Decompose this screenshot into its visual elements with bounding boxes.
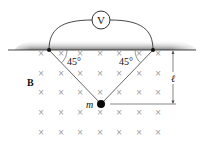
right-angle-label: 45° bbox=[119, 56, 133, 67]
field-cross-icon: × bbox=[58, 88, 65, 97]
field-cross-icon: × bbox=[116, 108, 123, 117]
voltmeter: V bbox=[92, 11, 110, 29]
field-cross-icon: × bbox=[136, 128, 143, 137]
field-cross-icon: × bbox=[116, 88, 123, 97]
left-junction bbox=[47, 48, 51, 52]
physics-diagram: ××××××××××××××××××××××××××××××××××× V 45… bbox=[0, 0, 206, 144]
field-cross-icon: × bbox=[136, 88, 143, 97]
mass-label: m bbox=[86, 99, 93, 110]
field-cross-icon: × bbox=[77, 108, 84, 117]
field-cross-icon: × bbox=[116, 128, 123, 137]
field-cross-icon: × bbox=[38, 69, 45, 78]
field-cross-icon: × bbox=[155, 128, 162, 137]
ceiling bbox=[8, 38, 200, 50]
mass-ball bbox=[97, 100, 105, 108]
field-cross-icon: × bbox=[77, 69, 84, 78]
field-cross-icon: × bbox=[77, 128, 84, 137]
field-cross-icon: × bbox=[155, 69, 162, 78]
field-cross-icon: × bbox=[97, 128, 104, 137]
field-cross-icon: × bbox=[38, 108, 45, 117]
left-angle-label: 45° bbox=[67, 56, 81, 67]
field-cross-icon: × bbox=[136, 108, 143, 117]
field-cross-icon: × bbox=[97, 88, 104, 97]
voltmeter-label: V bbox=[97, 14, 105, 26]
magnetic-field-grid: ××××××××××××××××××××××××××××××××××× bbox=[38, 49, 162, 137]
field-cross-icon: × bbox=[38, 88, 45, 97]
field-cross-icon: × bbox=[58, 69, 65, 78]
field-cross-icon: × bbox=[136, 69, 143, 78]
field-cross-icon: × bbox=[77, 88, 84, 97]
length-label: ℓ bbox=[171, 73, 175, 84]
field-cross-icon: × bbox=[155, 108, 162, 117]
field-cross-icon: × bbox=[155, 88, 162, 97]
field-label: B bbox=[27, 77, 34, 88]
field-cross-icon: × bbox=[97, 108, 104, 117]
right-junction bbox=[151, 48, 155, 52]
field-cross-icon: × bbox=[116, 69, 123, 78]
field-cross-icon: × bbox=[58, 108, 65, 117]
field-cross-icon: × bbox=[97, 69, 104, 78]
field-cross-icon: × bbox=[38, 128, 45, 137]
field-cross-icon: × bbox=[58, 128, 65, 137]
